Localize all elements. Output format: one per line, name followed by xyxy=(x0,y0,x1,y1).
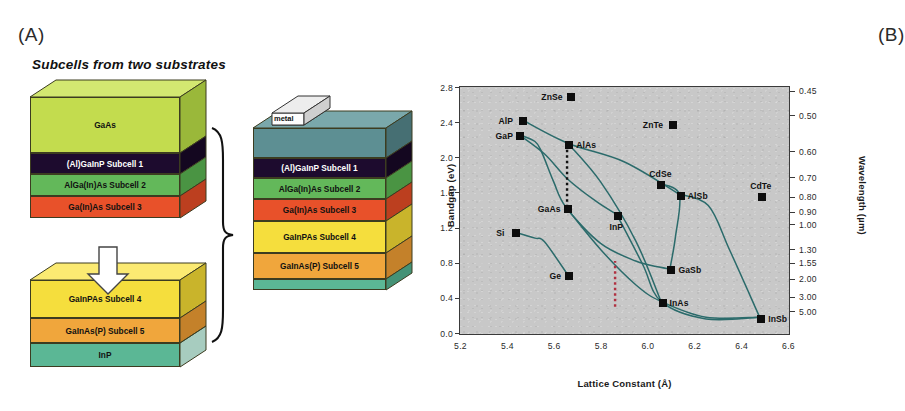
x-axis-tick-label: 6.2 xyxy=(688,341,701,351)
stack-layer-front: InP xyxy=(30,343,180,367)
material-label: ZnSe xyxy=(541,92,562,102)
material-marker xyxy=(667,266,675,274)
stack-layer-label: InP xyxy=(99,350,112,360)
material-label: GaAs xyxy=(538,204,561,214)
wavelength-tick-mark xyxy=(790,311,795,312)
material-label: AlSb xyxy=(688,191,708,201)
stack-layer-side xyxy=(386,279,414,309)
material-marker xyxy=(565,272,573,280)
wavelength-tick-mark xyxy=(790,212,795,213)
stack-layer-front: Ga(In)As Subcell 3 xyxy=(30,196,180,218)
panel-a-device-schematic: (A) Subcells from two substrates GaAs(Al… xyxy=(0,0,432,411)
material-marker xyxy=(519,117,527,125)
stack-layer-front: (Al)GaInP Subcell 1 xyxy=(30,153,180,174)
material-label: Ge xyxy=(549,271,561,281)
stack-top-face xyxy=(253,111,386,128)
material-label: CdSe xyxy=(649,169,671,179)
stack-layer-front: GaInPAs Subcell 4 xyxy=(253,221,386,253)
material-label: AlAs xyxy=(576,140,596,150)
stack-layer-front xyxy=(253,128,386,158)
y-axis-tick-label: 2.4 xyxy=(440,118,453,128)
stack-layer-label: AlGa(In)As Subcell 2 xyxy=(64,180,146,190)
stack-layer-front xyxy=(253,279,386,290)
x-axis-tick-label: 6.0 xyxy=(641,341,654,351)
alloy-curve xyxy=(514,232,567,274)
material-label: AlP xyxy=(499,116,514,126)
alloy-curve xyxy=(679,194,759,317)
panel-b-label: (B) xyxy=(878,24,905,46)
wavelength-tick-label: 0.50 xyxy=(799,111,817,121)
stack-layer-label: (Al)GaInP Subcell 1 xyxy=(281,163,357,173)
wavelength-tick-mark xyxy=(790,263,795,264)
material-label: GaSb xyxy=(678,265,701,275)
stack-layer-label: Ga(In)As Subcell 3 xyxy=(68,202,141,212)
material-label: InAs xyxy=(670,298,689,308)
material-label: GaP xyxy=(495,131,513,141)
wavelength-tick-label: 0.90 xyxy=(799,207,817,217)
wavelength-tick-label: 5.00 xyxy=(799,307,817,317)
y-axis-tick-mark xyxy=(455,87,459,88)
material-marker xyxy=(659,299,667,307)
wavelength-tick-label: 1.55 xyxy=(799,258,817,268)
grouping-brace xyxy=(206,126,240,344)
material-label: InP xyxy=(609,222,623,232)
x-axis-tick-label: 5.2 xyxy=(454,341,467,351)
y-axis-tick-label: 0.4 xyxy=(440,293,453,303)
material-marker xyxy=(565,141,573,149)
y-axis-tick-label: 0.0 xyxy=(440,329,453,339)
wavelength-tick-mark xyxy=(790,91,795,92)
stack-layer-label: AlGa(In)As Subcell 2 xyxy=(279,184,361,194)
material-marker xyxy=(757,315,765,323)
stack-layer-label: GaInPAs Subcell 4 xyxy=(69,294,142,304)
stack-layer-front: GaInAs(P) Subcell 5 xyxy=(253,253,386,279)
stack-top-face xyxy=(30,80,180,97)
y-axis-tick-mark xyxy=(455,157,459,158)
panel-b-bandgap-chart: (B) ZnSeAlPGaPAlAsZnTeCdSeAlSbCdTeGaAsIn… xyxy=(432,0,864,411)
material-label: Si xyxy=(496,228,504,238)
x-axis-tick-label: 6.4 xyxy=(735,341,748,351)
x-axis-tick-label: 5.6 xyxy=(548,341,561,351)
material-marker xyxy=(677,192,685,200)
wavelength-axis-title: Wavelength (µm) xyxy=(857,141,868,251)
stack-layer-front: GaInAs(P) Subcell 5 xyxy=(30,318,180,343)
material-marker xyxy=(567,93,575,101)
wavelength-tick-label: 0.45 xyxy=(799,86,817,96)
stack-layer-front: AlGa(In)As Subcell 2 xyxy=(30,174,180,196)
material-marker xyxy=(516,132,524,140)
stack-layer-front: AlGa(In)As Subcell 2 xyxy=(253,178,386,199)
stack-layer-side xyxy=(180,196,208,237)
stack-layer-side xyxy=(180,343,208,386)
x-axis-tick-label: 5.8 xyxy=(595,341,608,351)
wavelength-tick-label: 1.00 xyxy=(799,220,817,230)
wavelength-tick-mark xyxy=(790,197,795,198)
stack-layer-front: GaAs xyxy=(30,97,180,153)
x-axis-tick-label: 5.4 xyxy=(501,341,514,351)
wavelength-tick-mark xyxy=(790,297,795,298)
material-marker xyxy=(657,181,665,189)
material-marker xyxy=(564,205,572,213)
transfer-arrow-icon xyxy=(86,247,132,295)
wavelength-tick-label: 0.60 xyxy=(799,147,817,157)
material-marker xyxy=(512,229,520,237)
wavelength-tick-label: 2.00 xyxy=(799,274,817,284)
wavelength-tick-label: 0.70 xyxy=(799,173,817,183)
stack-layer-label: GaInAs(P) Subcell 5 xyxy=(280,261,359,271)
wavelength-tick-label: 1.30 xyxy=(799,245,817,255)
y-axis-tick-mark xyxy=(455,122,459,123)
x-axis-tick-label: 6.6 xyxy=(782,341,795,351)
panel-a-title: Subcells from two substrates xyxy=(32,57,226,72)
y-axis-tick-mark xyxy=(455,333,459,334)
stack-layer-label: GaInPAs Subcell 4 xyxy=(283,232,356,242)
y-axis-title: Bandgap (eV) xyxy=(445,146,456,246)
material-label: InSb xyxy=(768,314,787,324)
wavelength-tick-mark xyxy=(790,279,795,280)
x-axis-title: Lattice Constant (Å) xyxy=(459,378,790,389)
y-axis-tick-mark xyxy=(455,192,459,193)
material-marker xyxy=(758,193,766,201)
wavelength-tick-mark xyxy=(790,151,795,152)
y-axis-tick-label: 0.8 xyxy=(440,258,453,268)
y-axis-tick-mark xyxy=(455,298,459,299)
wavelength-tick-label: 3.00 xyxy=(799,292,817,302)
material-label: ZnTe xyxy=(643,120,663,130)
wavelength-tick-mark xyxy=(790,224,795,225)
